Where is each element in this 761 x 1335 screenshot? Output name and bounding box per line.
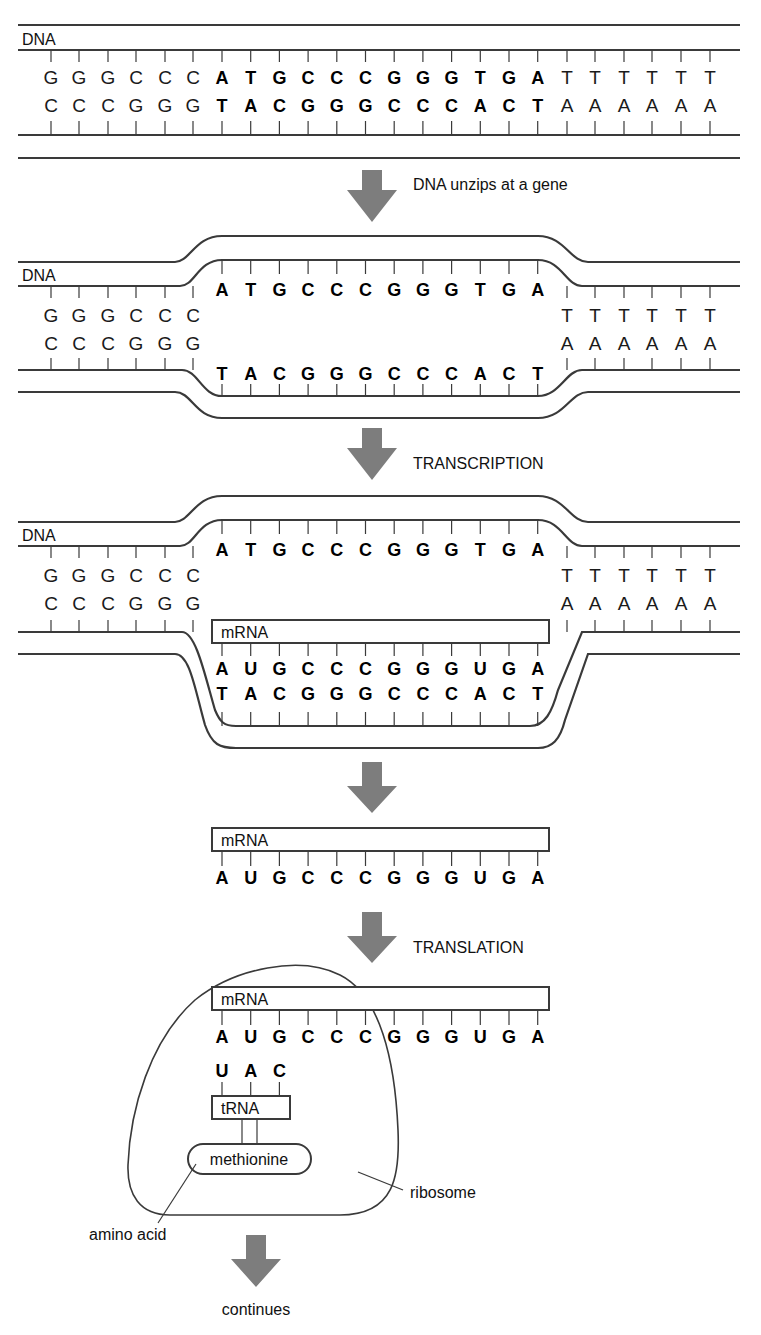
base-letter: A bbox=[675, 593, 688, 614]
base-letter: C bbox=[44, 593, 58, 614]
base-letter: C bbox=[359, 68, 372, 88]
base-letter: U bbox=[244, 659, 257, 679]
base-letter: C bbox=[129, 67, 143, 88]
step-transcription: TRANSCRIPTION bbox=[347, 428, 544, 480]
base-letter: T bbox=[589, 305, 601, 326]
down-arrow-icon bbox=[231, 1235, 281, 1287]
base-letter: T bbox=[704, 565, 716, 586]
base-letter: A bbox=[244, 96, 257, 116]
down-arrow-icon bbox=[347, 428, 397, 480]
step-label-unzip: DNA unzips at a gene bbox=[413, 176, 568, 193]
base-letter: C bbox=[445, 364, 458, 384]
dna-diagram: DNA GGGCCCATGCCCGGGTGATTTTTT CCCGGGTACGG… bbox=[0, 0, 761, 1335]
down-arrow-icon bbox=[347, 170, 397, 222]
base-letter: A bbox=[704, 333, 717, 354]
amino-acid-callout-line bbox=[158, 1164, 196, 1223]
base-letter: A bbox=[646, 333, 659, 354]
base-letter: A bbox=[531, 540, 544, 560]
base-letter: G bbox=[502, 280, 516, 300]
base-letter: A bbox=[561, 333, 574, 354]
base-letter: G bbox=[330, 96, 344, 116]
base-letter: G bbox=[330, 364, 344, 384]
base-letter: A bbox=[589, 593, 602, 614]
base-letter: C bbox=[359, 1027, 372, 1047]
base-letter: G bbox=[72, 305, 87, 326]
base-letter: G bbox=[272, 280, 286, 300]
base-letter: U bbox=[474, 868, 487, 888]
base-letter: T bbox=[475, 68, 486, 88]
panel-transcription: DNA mRNA GGGCCCCCCGGGATGCCCGGGTGAAUGCCCG… bbox=[18, 496, 740, 748]
base-letter: U bbox=[244, 1027, 257, 1047]
base-letter: G bbox=[44, 305, 59, 326]
dna-top-strand-bases: GGGCCCATGCCCGGGTGATTTTTT bbox=[44, 50, 717, 88]
panel-dna-unzipped: DNA GGGCCCCCCGGGATGCCCGGGTGATACGGGCCCACT… bbox=[18, 236, 740, 418]
base-letter: G bbox=[186, 333, 201, 354]
base-letter: C bbox=[273, 96, 286, 116]
base-letter: G bbox=[387, 868, 401, 888]
base-letter: G bbox=[186, 593, 201, 614]
base-letter: C bbox=[503, 364, 516, 384]
base-letter: C bbox=[445, 684, 458, 704]
base-letter: G bbox=[416, 659, 430, 679]
base-letter: C bbox=[388, 684, 401, 704]
base-letter: T bbox=[475, 540, 486, 560]
base-letter: T bbox=[618, 305, 630, 326]
base-letter: G bbox=[129, 95, 144, 116]
base-letter: A bbox=[531, 1027, 544, 1047]
amino-acid-name: methionine bbox=[210, 1151, 288, 1168]
base-letter: T bbox=[532, 684, 543, 704]
base-letter: T bbox=[675, 67, 687, 88]
base-letter: C bbox=[330, 659, 343, 679]
base-letter: G bbox=[101, 565, 116, 586]
base-letter: G bbox=[129, 333, 144, 354]
base-letter: A bbox=[704, 95, 717, 116]
base-letter: U bbox=[216, 1061, 229, 1081]
base-letter: C bbox=[388, 364, 401, 384]
base-letter: C bbox=[186, 305, 200, 326]
base-letter: G bbox=[358, 684, 372, 704]
base-letter: A bbox=[589, 95, 602, 116]
base-letter: C bbox=[273, 364, 286, 384]
dna-label: DNA bbox=[22, 527, 56, 544]
base-letter: G bbox=[158, 95, 173, 116]
base-letter: G bbox=[186, 95, 201, 116]
base-letter: A bbox=[561, 95, 574, 116]
base-letter: C bbox=[158, 67, 172, 88]
base-letter: C bbox=[359, 280, 372, 300]
base-letter: U bbox=[474, 659, 487, 679]
base-letter: A bbox=[618, 95, 631, 116]
base-letter: G bbox=[301, 684, 315, 704]
base-letter: T bbox=[618, 67, 630, 88]
base-letter: A bbox=[474, 96, 487, 116]
base-letter: A bbox=[474, 684, 487, 704]
base-letter: A bbox=[646, 593, 659, 614]
base-letter: C bbox=[302, 659, 315, 679]
base-letter: C bbox=[273, 1061, 286, 1081]
base-letter: C bbox=[302, 68, 315, 88]
base-letter: G bbox=[416, 68, 430, 88]
base-letter: T bbox=[217, 96, 228, 116]
base-letter: C bbox=[330, 868, 343, 888]
base-letter: C bbox=[445, 96, 458, 116]
base-letter: C bbox=[302, 540, 315, 560]
step-unzip: DNA unzips at a gene bbox=[347, 170, 568, 222]
panel-dna-double-strand: DNA GGGCCCATGCCCGGGTGATTTTTT CCCGGGTACGG… bbox=[18, 25, 740, 158]
base-letter: C bbox=[101, 593, 115, 614]
base-letter: A bbox=[531, 868, 544, 888]
base-letter: T bbox=[245, 68, 256, 88]
base-letter: C bbox=[72, 333, 86, 354]
base-letter: A bbox=[675, 95, 688, 116]
base-letter: G bbox=[387, 540, 401, 560]
base-letter: G bbox=[416, 868, 430, 888]
base-letter: G bbox=[445, 659, 459, 679]
base-letter: G bbox=[72, 67, 87, 88]
base-letter: T bbox=[704, 67, 716, 88]
dna-label: DNA bbox=[22, 31, 56, 48]
base-letter: G bbox=[387, 659, 401, 679]
base-letter: C bbox=[388, 96, 401, 116]
base-letter: T bbox=[675, 305, 687, 326]
trna-label: tRNA bbox=[221, 1100, 260, 1117]
dna-backbone-top bbox=[18, 260, 740, 286]
base-letter: C bbox=[302, 868, 315, 888]
base-letter: A bbox=[704, 593, 717, 614]
